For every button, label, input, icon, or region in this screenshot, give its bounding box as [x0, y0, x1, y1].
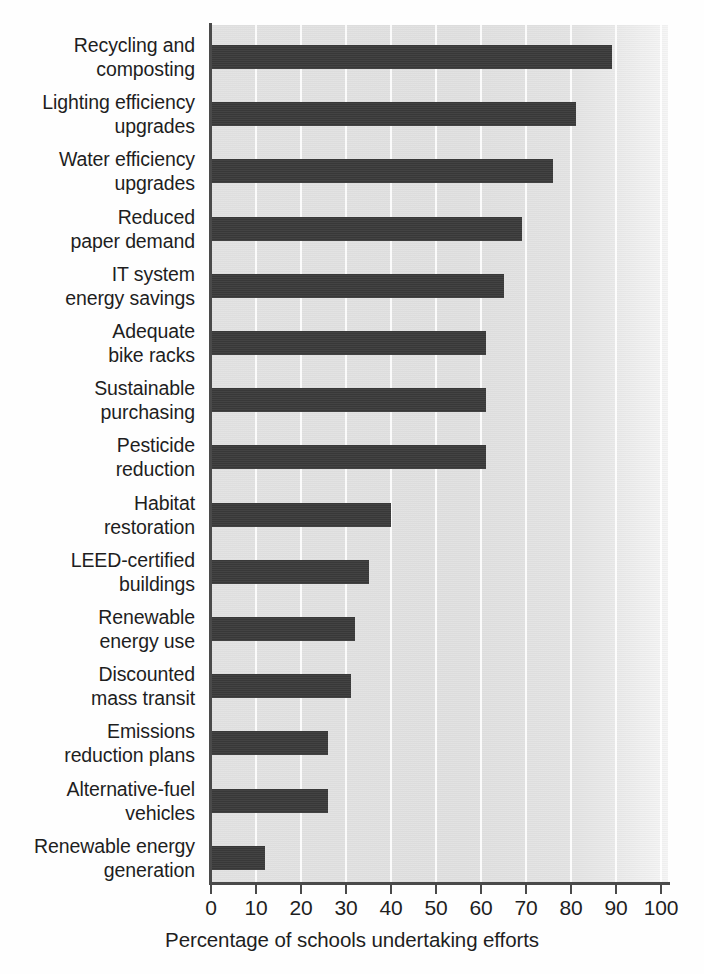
category-label-line2: restoration — [0, 515, 195, 539]
x-tick — [435, 884, 437, 894]
bar — [211, 45, 612, 69]
category-label: Alternative-fuelvehicles — [0, 777, 195, 825]
category-label-line2: reduction plans — [0, 743, 195, 767]
category-label-line1: LEED-certified — [0, 548, 195, 572]
bar — [211, 503, 391, 527]
category-label: Habitatrestoration — [0, 491, 195, 539]
category-axis-labels: Recycling andcompostingLighting efficien… — [0, 25, 203, 882]
plot-area — [211, 25, 668, 882]
category-label: Water efficiencyupgrades — [0, 147, 195, 195]
category-label: Recycling andcomposting — [0, 33, 195, 81]
category-label-line1: IT system — [0, 262, 195, 286]
bar — [211, 731, 328, 755]
gridline — [660, 25, 662, 882]
bar — [211, 102, 576, 126]
x-tick — [255, 884, 257, 894]
bar — [211, 789, 328, 813]
category-label-line1: Lighting efficiency — [0, 90, 195, 114]
category-label-line2: vehicles — [0, 801, 195, 825]
category-label: LEED-certifiedbuildings — [0, 548, 195, 596]
category-label: Emissionsreduction plans — [0, 719, 195, 767]
category-label-line1: Emissions — [0, 719, 195, 743]
category-label-line2: bike racks — [0, 343, 195, 367]
category-label-line2: mass transit — [0, 686, 195, 710]
x-tick — [210, 884, 212, 894]
x-tick — [570, 884, 572, 894]
bar — [211, 274, 504, 298]
bar — [211, 846, 265, 870]
category-label: Reducedpaper demand — [0, 205, 195, 253]
category-label: Renewable energygeneration — [0, 834, 195, 882]
y-axis-line — [209, 23, 212, 884]
category-label-line1: Pesticide — [0, 433, 195, 457]
x-tick — [300, 884, 302, 894]
category-label-line1: Adequate — [0, 319, 195, 343]
category-label-line2: composting — [0, 57, 195, 81]
category-label-line1: Recycling and — [0, 33, 195, 57]
category-label: Renewableenergy use — [0, 605, 195, 653]
category-label: IT systemenergy savings — [0, 262, 195, 310]
category-label: Sustainablepurchasing — [0, 376, 195, 424]
category-label-line2: upgrades — [0, 171, 195, 195]
category-label-line1: Water efficiency — [0, 147, 195, 171]
category-label-line2: purchasing — [0, 400, 195, 424]
category-label-line2: upgrades — [0, 114, 195, 138]
category-label: Lighting efficiencyupgrades — [0, 90, 195, 138]
gridline — [570, 25, 572, 882]
category-label-line2: paper demand — [0, 229, 195, 253]
category-label-line1: Habitat — [0, 491, 195, 515]
x-tick — [390, 884, 392, 894]
x-tick-label: 100 — [631, 896, 691, 920]
bar — [211, 331, 486, 355]
bar — [211, 617, 355, 641]
category-label-line1: Sustainable — [0, 376, 195, 400]
bar — [211, 388, 486, 412]
gridline — [525, 25, 527, 882]
category-label-line2: energy savings — [0, 286, 195, 310]
category-label-line1: Renewable energy — [0, 834, 195, 858]
category-label-line2: generation — [0, 858, 195, 882]
bar — [211, 159, 553, 183]
category-label-line2: buildings — [0, 572, 195, 596]
category-label-line1: Discounted — [0, 662, 195, 686]
gridline — [615, 25, 617, 882]
x-axis-title: Percentage of schools undertaking effort… — [0, 928, 704, 952]
x-tick — [660, 884, 662, 894]
category-label-line2: reduction — [0, 457, 195, 481]
category-label-line1: Alternative-fuel — [0, 777, 195, 801]
category-label-line1: Reduced — [0, 205, 195, 229]
x-tick — [345, 884, 347, 894]
bar-chart: Recycling andcompostingLighting efficien… — [0, 0, 704, 974]
category-label-line2: energy use — [0, 629, 195, 653]
bar — [211, 674, 351, 698]
bar — [211, 217, 522, 241]
bar — [211, 445, 486, 469]
category-label: Pesticidereduction — [0, 433, 195, 481]
x-axis-line — [209, 882, 670, 885]
category-label-line1: Renewable — [0, 605, 195, 629]
x-tick — [615, 884, 617, 894]
x-tick — [480, 884, 482, 894]
category-label: Discountedmass transit — [0, 662, 195, 710]
bar — [211, 560, 369, 584]
x-tick — [525, 884, 527, 894]
category-label: Adequatebike racks — [0, 319, 195, 367]
